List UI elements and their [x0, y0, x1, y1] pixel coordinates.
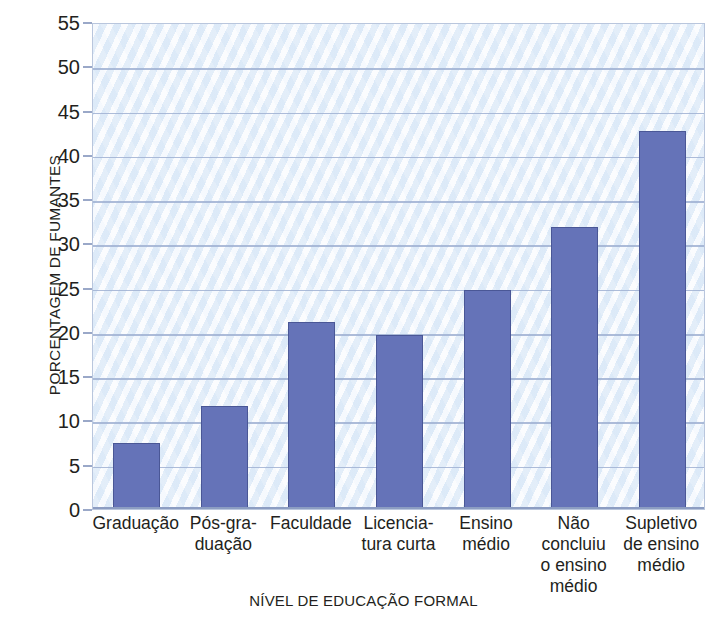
x-tick-label: Ensinomédio	[442, 513, 530, 555]
bars-layer	[93, 24, 704, 509]
y-tick-label: 0	[34, 500, 80, 520]
plot-area	[92, 23, 705, 510]
y-tick-mark	[83, 288, 92, 290]
x-tick-label: Pós-gra-duação	[180, 513, 268, 555]
y-tick-label: 45	[34, 102, 80, 122]
y-tick-label: 5	[34, 456, 80, 476]
x-axis-title: NÍVEL DE EDUCAÇÃO FORMAL	[0, 592, 727, 609]
x-tick-label: Nãoconcluiuo ensinomédio	[530, 513, 618, 597]
y-tick-mark	[83, 199, 92, 201]
bar	[464, 290, 511, 509]
y-tick-mark	[83, 465, 92, 467]
bar	[288, 322, 335, 509]
y-tick-mark	[83, 111, 92, 113]
y-tick-mark	[83, 420, 92, 422]
y-tick-mark	[83, 376, 92, 378]
y-tick-mark	[83, 243, 92, 245]
y-tick-label: 10	[34, 411, 80, 431]
y-tick-mark	[83, 332, 92, 334]
bar	[551, 227, 598, 509]
y-tick-label: 40	[34, 146, 80, 166]
y-tick-mark	[83, 22, 92, 24]
bar-chart: PORCENTAGEM DE FUMANTES 0510152025303540…	[0, 0, 727, 626]
y-tick-mark	[83, 155, 92, 157]
bar	[113, 443, 160, 509]
y-axis-tick-labels: 0510152025303540455055	[34, 0, 80, 626]
bar	[639, 131, 686, 509]
y-tick-label: 55	[34, 13, 80, 33]
x-tick-label: Supletivode ensinomédio	[617, 513, 705, 576]
bar	[376, 335, 423, 509]
y-tick-mark	[83, 66, 92, 68]
y-tick-label: 15	[34, 367, 80, 387]
y-tick-label: 35	[34, 190, 80, 210]
bar	[201, 406, 248, 509]
y-tick-label: 20	[34, 323, 80, 343]
y-tick-label: 25	[34, 279, 80, 299]
y-tick-label: 50	[34, 57, 80, 77]
x-tick-label: Licencia-tura curta	[355, 513, 443, 555]
x-tick-label: Faculdade	[267, 513, 355, 534]
y-tick-label: 30	[34, 234, 80, 254]
y-tick-mark	[83, 509, 92, 511]
x-tick-label: Graduação	[92, 513, 180, 534]
x-axis-baseline	[93, 507, 704, 509]
